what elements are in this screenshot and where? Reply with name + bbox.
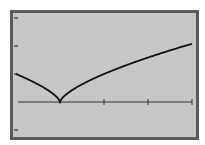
function-curve: [16, 44, 192, 102]
calculator-graph-screen: [10, 10, 199, 140]
plot-area: [13, 13, 196, 137]
